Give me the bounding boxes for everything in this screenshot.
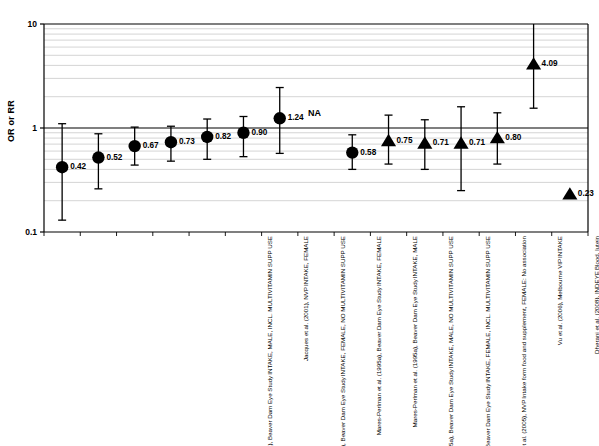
category-label-line1: INTAKE, MALE, INCL. MULTIVITAMIN SUPP US… [266, 236, 273, 375]
category-label-line1: INTAKE, FEMALE, NO MULTIVITAMIN SUPP USE [339, 236, 346, 376]
data-point-circle [92, 151, 104, 163]
data-point-value-label: 0.67 [143, 142, 159, 150]
data-point-value-label: 0.71 [469, 139, 485, 147]
category-label-line2: Mares-Perlman et al. (1995a), Beaver Dam… [484, 384, 491, 446]
data-point-value-label: 0.80 [505, 134, 521, 142]
category-label-line1: INTAKE, FEMALE, INCL. MULTIVITAMIN SUPP … [484, 236, 491, 383]
x-axis-category-label: Vu et al. (2006), Melbourne VIPINTAKE [357, 236, 563, 442]
x-axis-category-label: Jacques et al. (2005), NVPIntake form fo… [321, 236, 527, 442]
category-label-line2: Mares-Perlman et al. (1995a), Beaver Dam… [411, 279, 418, 427]
x-axis-category-label: Mares-Perlman et al. (1995a), Beaver Dam… [248, 236, 454, 442]
data-point-value-label: 0.52 [106, 154, 122, 162]
category-label-line1: INTAKE, MALE [411, 236, 418, 278]
category-label-line2: Mares-Perlman et al. (1995a), Beaver Dam… [266, 376, 273, 446]
data-point-value-label: 0.82 [215, 133, 231, 141]
y-axis-title: OR or RR [6, 100, 24, 142]
data-point-circle [346, 146, 358, 158]
data-series [56, 24, 577, 220]
category-label-line2: Dherani et al. (2008), INDEYE [593, 271, 599, 354]
category-label-line2: Jacques et al. (2005), NVP [520, 400, 527, 446]
x-axis-category-label: Dherani et al. (2008), INDEYEBlood, lute… [394, 236, 599, 442]
category-label-line2: Mares-Perlman et al. (1995a), Beaver Dam… [375, 287, 382, 435]
x-axis-category-label: Gale et al. (2001)PLASMA [502, 236, 599, 442]
category-label-line1: INTAKE, FEMALE [375, 236, 382, 286]
category-label-line1: Intake form food and supplement, FEMALE:… [520, 236, 527, 399]
category-label-line1: Blood, lutein [593, 236, 599, 270]
data-point-circle [237, 127, 249, 139]
data-point-value-label: 0.42 [70, 163, 86, 171]
x-axis-category-label: Mares-Perlman et al. (1995a), Beaver Dam… [140, 236, 346, 442]
data-point-circle [128, 140, 140, 152]
category-label-line1: INTAKE [556, 236, 563, 258]
x-axis-category-label: Delcourt et al. (2006), POLA StudyPlasma [575, 236, 599, 442]
error-bar [457, 107, 465, 191]
x-axis-category-label: Mares-Perlman et al. (1995a), Beaver Dam… [176, 236, 382, 442]
data-point-circle [274, 112, 286, 124]
forest-plot-figure: OR or RR 1010.1 0.420.520.670.730.820.90… [0, 0, 599, 446]
data-point-value-label: 0.58 [360, 149, 376, 157]
data-point-value-label: 1.24 [288, 114, 304, 122]
data-point-value-label: 0.75 [397, 137, 413, 145]
data-point-circle [165, 136, 177, 148]
data-point-value-label: 0.73 [179, 138, 195, 146]
x-axis-category-label: Mares-Perlman et al. (1995b), Beaver Dam… [539, 236, 599, 442]
category-label-line1: INTAKE, MALE, NO MULTIVITAMIN SUPP USE [447, 236, 454, 368]
data-point-circle [56, 161, 68, 173]
x-axis-category-label: Mares-Perlman et al. (1995a), Beaver Dam… [285, 236, 491, 442]
x-axis-category-label: Mares-Perlman et al. (1995b), Beaver Dam… [466, 236, 599, 442]
data-point-triangle [526, 57, 541, 69]
category-label-line2: Jacques et al. (2001), NVP [302, 287, 309, 361]
category-label-line2: Mares-Perlman et al. (1995a), Beaver Dam… [339, 377, 346, 446]
x-axis-category-label: Mares-Perlman et al. (1995a), Beaver Dam… [67, 236, 273, 442]
data-point-value-label: 0.71 [433, 139, 449, 147]
data-point-triangle [562, 187, 577, 199]
y-axis-tick-label: 10 [11, 20, 37, 29]
x-axis-category-labels: Mares-Perlman et al. (1995a), Beaver Dam… [0, 236, 599, 446]
category-label-line2: Mares-Perlman et al. (1995a), Beaver Dam… [447, 369, 454, 446]
x-axis-category-label: Jacques et al. (2001), NVPINTAKE, FEMALE [103, 236, 309, 442]
y-axis-tick-label: 1 [11, 124, 37, 133]
na-annotation: NA [308, 109, 321, 118]
data-point-triangle [381, 134, 396, 146]
category-label-line2: Vu et al. (2006), Melbourne VIP [556, 259, 563, 345]
data-point-value-label: 4.09 [542, 60, 558, 68]
data-point-value-label: 0.23 [578, 190, 594, 198]
data-point-circle [201, 131, 213, 143]
x-axis-category-label: Mares-Perlman et al. (1995a), Beaver Dam… [212, 236, 418, 442]
x-axis-category-label: Dherani et al. (2008), INDEYEBlood, zeax… [430, 236, 599, 442]
category-label-line1: INTAKE, FEMALE [302, 236, 309, 286]
data-point-value-label: 0.90 [251, 129, 267, 137]
